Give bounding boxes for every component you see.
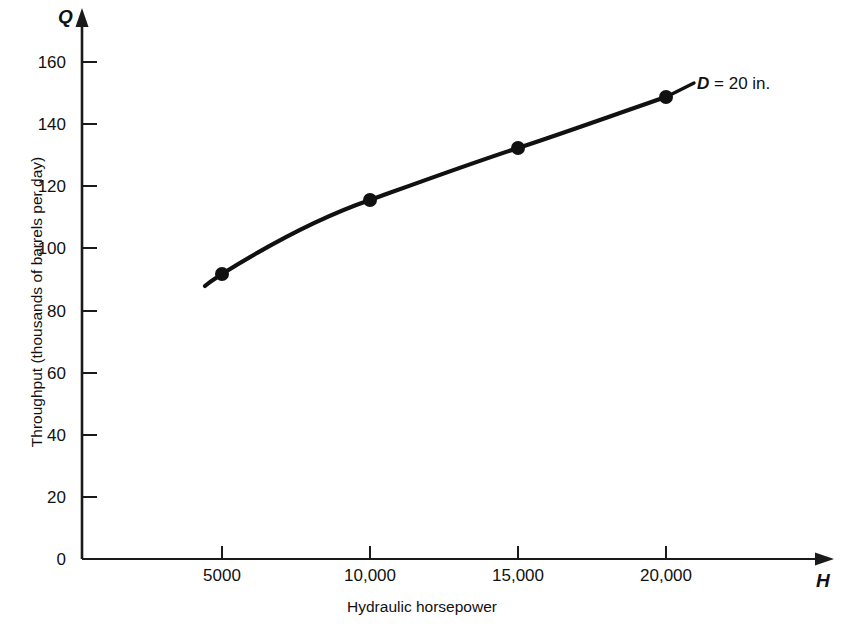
data-point — [363, 193, 377, 207]
x-tick-label-5000: 5000 — [172, 567, 272, 584]
chart-figure: 160 140 120 100 80 60 40 20 0 5000 10,00… — [0, 0, 844, 628]
y-tick-label-0: 0 — [6, 551, 66, 568]
x-tick-label-20000: 20,000 — [616, 567, 716, 584]
series-annotation-label: D = 20 in. — [697, 74, 770, 94]
annotation-value: 20 in. — [729, 74, 771, 93]
annotation-variable: D — [697, 74, 709, 93]
x-axis-ticks — [222, 546, 666, 559]
data-point — [215, 267, 229, 281]
y-axis-ticks — [82, 62, 97, 497]
y-axis-symbol: Q — [58, 6, 73, 28]
chart-plot-area — [0, 0, 844, 628]
x-axis-title: Hydraulic horsepower — [0, 598, 844, 616]
x-axis-arrowhead — [815, 553, 834, 566]
y-axis-title: Throughput (thousands of barrels per day… — [28, 112, 46, 492]
x-tick-label-10000: 10,000 — [320, 567, 420, 584]
annotation-relation-symbol: = — [714, 74, 724, 93]
x-axis-symbol: H — [816, 570, 830, 592]
y-tick-label-160: 160 — [6, 54, 66, 71]
y-axis-arrowhead — [76, 8, 89, 27]
data-point — [511, 141, 525, 155]
x-tick-label-15000: 15,000 — [468, 567, 568, 584]
data-curve-series-1 — [205, 97, 666, 286]
data-point — [659, 90, 673, 104]
